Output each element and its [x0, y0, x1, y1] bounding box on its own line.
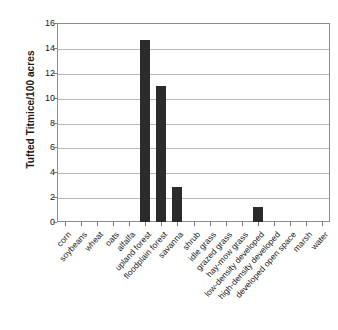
x-tick-mark	[129, 222, 130, 226]
y-tick-mark	[53, 73, 57, 74]
bar	[156, 86, 166, 222]
x-tick-mark	[194, 222, 195, 226]
x-tick-mark	[322, 222, 323, 226]
x-tick-mark	[274, 222, 275, 226]
x-tick-mark	[210, 222, 211, 226]
y-tick-label: 0	[15, 217, 55, 227]
y-tick-label: 10	[15, 93, 55, 103]
x-tick-mark	[145, 222, 146, 226]
y-tick-label: 2	[15, 192, 55, 202]
y-tick-mark	[53, 23, 57, 24]
x-tick-mark	[97, 222, 98, 226]
x-tick-mark	[258, 222, 259, 226]
y-tick-label: 16	[15, 18, 55, 28]
y-tick-label: 4	[15, 167, 55, 177]
y-tick-label: 12	[15, 68, 55, 78]
x-tick-mark	[113, 222, 114, 226]
y-tick-mark	[53, 172, 57, 173]
x-tick-mark	[290, 222, 291, 226]
y-tick-mark	[53, 123, 57, 124]
bar	[253, 207, 263, 222]
y-tick-mark	[53, 48, 57, 49]
y-tick-mark	[53, 147, 57, 148]
y-tick-label: 6	[15, 142, 55, 152]
y-tick-mark	[53, 98, 57, 99]
y-tick-mark	[53, 197, 57, 198]
bar-chart-figure: Tufted Titmice/100 acres cornsoybeanswhe…	[0, 0, 338, 330]
x-tick-mark	[306, 222, 307, 226]
x-tick-mark	[242, 222, 243, 226]
bar	[172, 187, 182, 222]
y-tick-label: 14	[15, 43, 55, 53]
bars-layer	[57, 23, 330, 222]
y-tick-mark	[53, 222, 57, 223]
x-tick-mark	[65, 222, 66, 226]
bar	[140, 40, 150, 222]
x-axis-labels: cornsoybeanswheatoatsalfalfaupland fores…	[57, 228, 338, 328]
y-tick-label: 8	[15, 118, 55, 128]
x-tick-mark	[226, 222, 227, 226]
x-tick-mark	[161, 222, 162, 226]
x-tick-mark	[81, 222, 82, 226]
x-axis-ticks	[57, 222, 330, 227]
x-tick-mark	[177, 222, 178, 226]
